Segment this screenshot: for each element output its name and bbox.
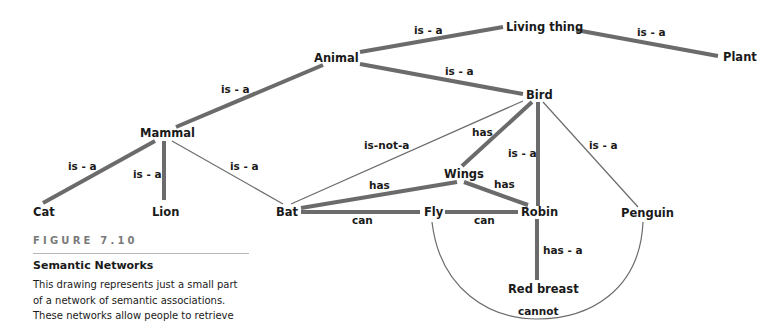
edge-label-bat-fly: can — [352, 214, 373, 226]
node-cat: Cat — [33, 205, 55, 219]
edge-label-lion-mammal: is - a — [133, 168, 162, 180]
edge-label-robin-bird: is - a — [508, 147, 537, 159]
node-robin: Robin — [521, 205, 558, 219]
edge-label-penguin-fly: cannot — [518, 305, 559, 317]
node-mammal: Mammal — [140, 126, 195, 140]
node-lion: Lion — [152, 205, 179, 219]
figure-body-line: This drawing represents just a small par… — [33, 277, 251, 293]
edge-label-mammal-animal: is - a — [221, 83, 250, 95]
node-living-thing: Living thing — [506, 20, 583, 34]
edge-label-plant-living-thing: is - a — [637, 26, 666, 38]
figure-body-line: These networks allow people to retrieve — [33, 308, 251, 324]
node-fly: Fly — [424, 205, 444, 219]
edge-animal-bird — [360, 64, 523, 94]
edge-animal-mammal — [176, 65, 323, 127]
edge-label-robin-fly: can — [474, 214, 495, 226]
figure-body: This drawing represents just a small par… — [33, 277, 251, 324]
edge-label-robin-red-breast: has - a — [543, 244, 583, 256]
node-wings: Wings — [444, 167, 484, 181]
edge-label-penguin-bird: is - a — [589, 139, 618, 151]
edge-mammal-bat — [172, 141, 283, 204]
figure-number: FIGURE 7.10 — [33, 235, 251, 250]
node-bird: Bird — [526, 88, 553, 102]
edge-label-animal-living-thing: is - a — [414, 24, 443, 36]
figure-title: Semantic Networks — [33, 259, 251, 272]
edge-label-bird-wings: has — [472, 126, 493, 138]
node-plant: Plant — [723, 50, 757, 64]
node-penguin: Penguin — [621, 206, 674, 220]
edge-bird-penguin — [543, 102, 638, 207]
edge-label-bat-bird: is-not-a — [364, 139, 409, 151]
figure-caption: FIGURE 7.10 Semantic Networks This drawi… — [33, 235, 251, 324]
edge-label-bird-animal: is - a — [445, 65, 474, 77]
node-bat: Bat — [276, 205, 299, 219]
node-animal: Animal — [314, 51, 359, 65]
edge-label-bat-wings: has — [369, 179, 390, 191]
edge-label-bat-mammal: is - a — [230, 160, 259, 172]
edge-label-robin-wings: has — [494, 178, 515, 190]
figure-body-line: of a network of semantic associations. — [33, 293, 251, 309]
caption-divider — [33, 253, 249, 254]
edge-label-cat-mammal: is - a — [68, 160, 97, 172]
node-red-breast: Red breast — [508, 282, 579, 296]
